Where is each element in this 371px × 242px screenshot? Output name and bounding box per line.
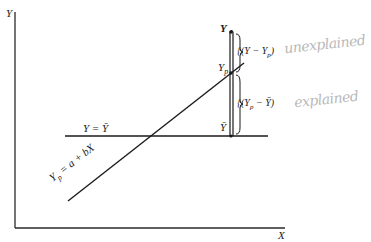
mean-point [229,134,232,137]
unexplained-deviation-label: {(Y − Yp) [237,46,274,59]
predicted-point [229,71,233,75]
mean-point-label: Ȳ [220,122,226,133]
mean-line-label: Y = Ȳ [83,123,108,134]
predicted-label-sub: p [224,67,228,76]
x-axis-label: X [278,230,285,241]
lower-bracket-rest: − Ȳ) [253,97,274,108]
upper-bracket-main: {(Y − Y [237,45,267,56]
observed-point [229,30,233,34]
predicted-point-label: Yp [218,62,228,76]
explained-deviation-label: {(Yp − Ȳ) [237,98,274,111]
upper-bracket-close: ) [271,45,274,56]
lower-bracket-main: {(Y [237,97,250,108]
observed-point-label: Y [220,23,227,34]
y-axis-label: Y [6,8,12,19]
regression-decomposition-diagram: Y X Y = Ȳ Yp = a + bX Y Yp Ȳ {(Y − Yp) {… [0,0,371,242]
